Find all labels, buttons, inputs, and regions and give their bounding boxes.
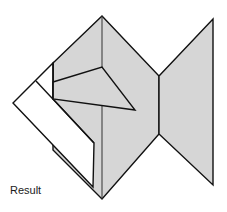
- fish-diagram: [0, 0, 227, 212]
- fish-body: [53, 16, 159, 199]
- caption-result: Result: [10, 184, 41, 196]
- fish-tail: [159, 19, 213, 185]
